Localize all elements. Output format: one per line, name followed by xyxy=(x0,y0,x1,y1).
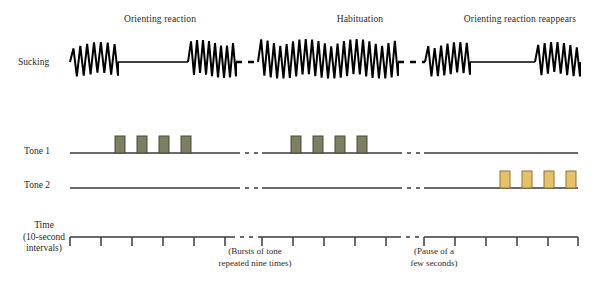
tone-1-pulse-4 xyxy=(181,136,191,153)
diagram-canvas xyxy=(0,0,608,281)
sucking-segment-burst-0 xyxy=(70,42,118,76)
tone-1-pulse-8 xyxy=(357,136,367,153)
sucking-trace xyxy=(70,39,580,79)
tone-2-pulse-1 xyxy=(500,171,510,188)
sucking-segment-burst-8 xyxy=(535,42,580,76)
tone-2-track xyxy=(70,171,578,188)
tone-1-pulse-7 xyxy=(335,136,345,153)
sucking-segment-burst-2 xyxy=(188,40,236,78)
tone-2-pulse-3 xyxy=(544,171,554,188)
tone-2-pulse-2 xyxy=(522,171,532,188)
tone-1-pulse-2 xyxy=(137,136,147,153)
sucking-segment-burst-6 xyxy=(425,42,470,76)
tone-1-pulse-5 xyxy=(291,136,301,153)
tone-1-track xyxy=(70,136,578,153)
tone-2-pulse-4 xyxy=(566,171,576,188)
habituation-figure: Orienting reaction Habituation Orienting… xyxy=(0,0,608,281)
time-axis xyxy=(70,237,578,246)
sucking-segment-burst-4 xyxy=(258,39,398,79)
tone-1-pulse-3 xyxy=(159,136,169,153)
tone-1-pulse-6 xyxy=(313,136,323,153)
tone-1-pulse-1 xyxy=(115,136,125,153)
